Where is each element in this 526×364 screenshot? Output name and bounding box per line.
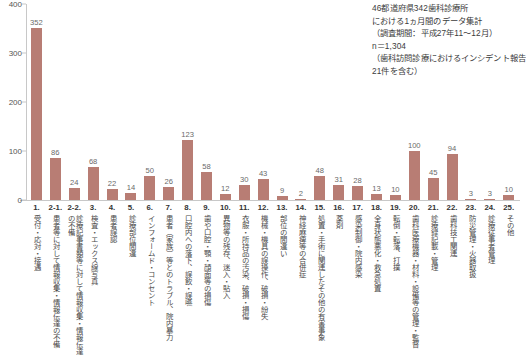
bar [31, 28, 42, 200]
x-label-slot: 2-1.患者等に対して情報収集・情報伝達の不備 [46, 203, 65, 361]
x-label-text: 患者（家族）等とのトラブル、院内暴力 [164, 214, 173, 340]
x-label-number: 25. [503, 203, 514, 213]
bar-value-label: 10 [504, 185, 512, 194]
x-label-text: 歯科技工関連 [448, 214, 457, 256]
bar-value-label: 26 [164, 177, 172, 186]
bar [352, 186, 363, 200]
bar-value-label: 94 [448, 144, 456, 153]
bar-slot: 3 [480, 4, 499, 200]
x-label-slot: 11.衣服・所持品の汚染、破損・損傷 [235, 203, 254, 361]
x-label-slot: 5.診療部位間違 [121, 203, 140, 361]
bar [201, 172, 212, 200]
x-label-text: 歯科医療機器・材料・設備等の管理・監督 [410, 214, 419, 347]
x-label-text: 機械・機具の誤操作、破損・紛失 [259, 214, 268, 319]
bar-value-label: 10 [391, 185, 399, 194]
bar [484, 199, 495, 200]
x-label-slot: 10.異物等の残存、迷入・貼入 [216, 203, 235, 361]
x-label-number: 24. [484, 203, 495, 213]
x-label-slot: 25.その他 [499, 203, 518, 361]
x-label-text: 薬剤 [334, 214, 343, 228]
x-label-text: 診療記事書類等に対して情報収集・情報伝達の不備 [66, 214, 83, 356]
bar-slot: 30 [235, 4, 254, 200]
y-tick-mark [22, 53, 26, 54]
bar-slot: 86 [46, 4, 65, 200]
x-label-number: 9. [203, 203, 210, 213]
y-tick-mark [22, 4, 26, 5]
bar-slot: 26 [159, 4, 178, 200]
bar-value-label: 45 [429, 168, 437, 177]
bar-value-label: 100 [408, 141, 421, 150]
bar [69, 188, 80, 200]
bar-slot: 50 [140, 4, 159, 200]
bar-value-label: 28 [353, 176, 361, 185]
x-label-number: 10. [220, 203, 231, 213]
x-label-number: 16. [333, 203, 344, 213]
x-label-number: 20. [409, 203, 420, 213]
x-label-number: 22. [447, 203, 458, 213]
bar-slot: 22 [103, 4, 122, 200]
bar [371, 194, 382, 200]
y-tick-mark [22, 200, 26, 201]
x-label-number: 8. [184, 203, 191, 213]
x-label-number: 2-1. [49, 203, 62, 213]
bar [107, 189, 118, 200]
x-label-text: 神経麻痺等の合併症 [297, 214, 306, 277]
bar-value-label: 68 [89, 157, 97, 166]
x-label-number: 18. [371, 203, 382, 213]
x-label-slot: 22.歯科技工関連 [443, 203, 462, 361]
x-label-number: 13. [277, 203, 288, 213]
x-label-slot: 8.口腔内への落下、誤飲・誤嚥 [178, 203, 197, 361]
x-label-number: 7. [165, 203, 172, 213]
bar-value-label: 22 [108, 179, 116, 188]
x-label-text: 診療部位間違 [127, 214, 136, 256]
bar-value-label: 2 [299, 189, 303, 198]
y-tick-label: 400 [9, 0, 22, 9]
bar-value-label: 12 [221, 184, 229, 193]
x-label-number: 11. [239, 203, 249, 213]
x-label-text: 感染制御・院内感染 [353, 214, 362, 277]
bar [428, 178, 439, 200]
bar [163, 187, 174, 200]
bar [239, 185, 250, 200]
x-label-slot: 21.診療録記載・管理 [424, 203, 443, 361]
bar-value-label: 14 [127, 183, 135, 192]
bar [447, 154, 458, 200]
x-label-number: 1. [33, 203, 40, 213]
x-label-number: 19. [390, 203, 401, 213]
x-label-number: 15. [314, 203, 325, 213]
y-tick-label: 200 [9, 98, 22, 107]
y-tick-mark [22, 102, 26, 103]
x-label-slot: 4.患者誤認 [103, 203, 122, 361]
x-label-text: 患者等に対して情報収集・情報伝達の不備 [51, 214, 60, 347]
bar-value-label: 58 [202, 162, 210, 171]
bar [503, 195, 514, 200]
x-label-slot: 16.薬剤 [329, 203, 348, 361]
bar-slot: 13 [367, 4, 386, 200]
bar-value-label: 9 [280, 186, 284, 195]
bar-value-label: 86 [51, 148, 59, 157]
x-label-slot: 6.インフォームド・コンセント [140, 203, 159, 361]
bar [390, 195, 401, 200]
bar [125, 193, 136, 200]
x-label-number: 5. [128, 203, 135, 213]
x-axis-line [20, 200, 520, 201]
bar [220, 194, 231, 200]
bar-value-label: 123 [181, 130, 194, 139]
bar-slot: 10 [499, 4, 518, 200]
bar-slot: 123 [178, 4, 197, 200]
bar-value-label: 352 [30, 18, 43, 27]
bar-slot: 43 [254, 4, 273, 200]
bar-slot: 3 [461, 4, 480, 200]
bar-slot: 100 [405, 4, 424, 200]
bar [465, 199, 476, 200]
y-tick-label: 300 [9, 49, 22, 58]
x-label-number: 6. [147, 203, 154, 213]
bar-slot: 2 [291, 4, 310, 200]
bar-slot: 28 [348, 4, 367, 200]
bar-value-label: 48 [316, 166, 324, 175]
x-axis-labels: 1.受付・応対・接遇2-1.患者等に対して情報収集・情報伝達の不備2-2.診療記… [27, 203, 518, 361]
x-label-slot: 24.診療従事者管理 [480, 203, 499, 361]
bar [409, 151, 420, 200]
x-label-text: 防災管理・火器取扱 [467, 214, 476, 277]
bar [88, 167, 99, 200]
